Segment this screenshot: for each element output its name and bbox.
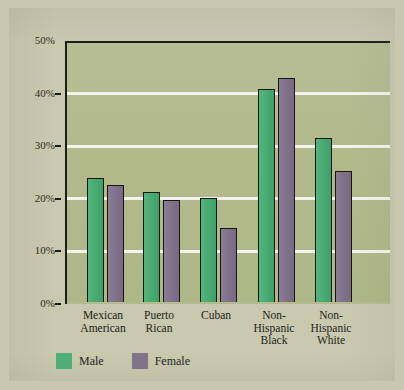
male-color-swatch <box>56 353 72 369</box>
legend-item-female[interactable]: Female <box>132 353 190 369</box>
x-axis-label-line: Hispanic <box>286 322 376 335</box>
y-tick-mark <box>55 198 61 200</box>
x-axis-label-line: White <box>286 334 376 347</box>
bar-group <box>200 41 240 304</box>
y-tick-label: 50% <box>11 35 55 46</box>
bar-group <box>87 41 127 304</box>
bar-male <box>143 192 160 304</box>
bar-group <box>143 41 183 304</box>
x-axis-label-line: Non- <box>286 309 376 322</box>
chart-legend: MaleFemale <box>56 353 208 369</box>
bar-female <box>335 171 352 304</box>
female-color-swatch <box>132 353 148 369</box>
x-axis-label: Non-HispanicWhite <box>286 309 376 347</box>
y-tick-mark <box>55 303 61 305</box>
chart-canvas: 0%10%20%30%40%50% MexicanAmericanPuertoR… <box>9 8 395 381</box>
x-axis-label-line: Rican <box>114 322 204 335</box>
bar-male <box>87 178 104 304</box>
plot-area <box>65 41 390 304</box>
y-tick-mark <box>55 93 61 95</box>
y-tick-label: 10% <box>11 245 55 256</box>
y-tick-label: 0% <box>11 298 55 309</box>
legend-label: Female <box>155 354 190 369</box>
y-tick-mark <box>55 250 61 252</box>
bar-female <box>107 185 124 304</box>
y-tick-label: 20% <box>11 193 55 204</box>
bar-group <box>315 41 355 304</box>
bar-male <box>315 138 332 304</box>
bar-female <box>163 200 180 304</box>
y-tick-label: 40% <box>11 88 55 99</box>
bar-male <box>258 89 275 304</box>
y-tick-label: 30% <box>11 140 55 151</box>
legend-label: Male <box>79 354 104 369</box>
y-tick-mark <box>55 145 61 147</box>
bar-female <box>278 78 295 304</box>
chart-figure: 0%10%20%30%40%50% MexicanAmericanPuertoR… <box>0 0 404 390</box>
bar-group <box>258 41 298 304</box>
bar-male <box>200 198 217 304</box>
y-axis: 0%10%20%30%40%50% <box>9 41 61 304</box>
baseline <box>67 302 390 304</box>
legend-item-male[interactable]: Male <box>56 353 104 369</box>
bar-female <box>220 228 237 304</box>
